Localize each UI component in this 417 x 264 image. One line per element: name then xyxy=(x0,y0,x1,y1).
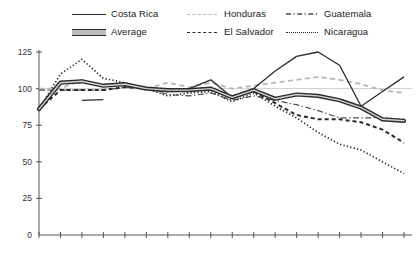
chart-series-group xyxy=(39,52,404,174)
legend-swatch-solid-icon xyxy=(72,9,106,19)
chart-x-tick-labels: 1963196519671970197119721973197419751976… xyxy=(31,241,413,242)
x-tick-label: 1979 xyxy=(288,241,305,242)
x-tick-label: 1971 xyxy=(116,241,133,242)
legend-label-average: Average xyxy=(111,27,147,37)
legend-swatch-dash-dot-icon xyxy=(285,9,319,19)
legend-item-nicaragua: Nicaragua xyxy=(285,24,368,40)
x-tick-label: 1982 xyxy=(353,241,370,242)
legend-item-costa-rica: Costa Rica xyxy=(72,6,158,22)
chart-axes xyxy=(36,50,412,238)
y-tick-label: 75 xyxy=(23,120,33,130)
y-tick-label: 100 xyxy=(18,84,32,94)
y-tick-label: 25 xyxy=(23,193,33,203)
legend-swatch-thick-band-icon xyxy=(72,27,106,37)
x-tick-label: 1983 xyxy=(374,241,391,242)
series-average xyxy=(39,81,404,121)
legend-label-el-salvador: El Salvador xyxy=(224,27,274,37)
x-tick-label: 1973 xyxy=(159,241,176,242)
x-tick-label: 1974 xyxy=(181,241,198,242)
x-tick-label: 1963 xyxy=(31,241,48,242)
y-tick-label: 125 xyxy=(18,47,32,57)
legend-item-guatemala: Guatemala xyxy=(285,6,371,22)
x-tick-label: 1972 xyxy=(138,241,155,242)
legend-label-nicaragua: Nicaragua xyxy=(324,27,368,37)
legend-row-2: Average El Salvador Nicaragua xyxy=(0,24,417,40)
series-el-salvador xyxy=(39,87,404,143)
chart-y-tick-labels: 0255075100125 xyxy=(18,47,32,240)
x-tick-label: 1976 xyxy=(224,241,241,242)
series-costa-rica-lead-in xyxy=(82,100,104,101)
x-tick-label: 1970 xyxy=(95,241,112,242)
series-nicaragua xyxy=(39,59,404,173)
line-chart-svg: 0255075100125 19631965196719701971197219… xyxy=(0,42,417,242)
legend-item-honduras: Honduras xyxy=(185,6,266,22)
x-tick-label: 1984 xyxy=(396,241,413,242)
legend-swatch-dashed-light-icon xyxy=(185,9,219,19)
legend-label-costa-rica: Costa Rica xyxy=(111,9,158,19)
legend-swatch-dashed-dark-icon xyxy=(185,27,219,37)
y-tick-label: 50 xyxy=(23,157,33,167)
x-tick-label: 1967 xyxy=(73,241,90,242)
chart-legend: Costa Rica Honduras Guatemala Average xyxy=(0,6,417,44)
x-tick-label: 1981 xyxy=(331,241,348,242)
legend-label-honduras: Honduras xyxy=(224,9,266,19)
chart-plot-area: 0255075100125 19631965196719701971197219… xyxy=(0,42,417,242)
x-tick-label: 1965 xyxy=(52,241,69,242)
x-tick-label: 1977 xyxy=(245,241,262,242)
legend-row-1: Costa Rica Honduras Guatemala xyxy=(0,6,417,22)
x-tick-label: 1978 xyxy=(267,241,284,242)
x-tick-label: 1980 xyxy=(310,241,327,242)
y-tick-label: 0 xyxy=(27,230,32,240)
chart-page: Costa Rica Honduras Guatemala Average xyxy=(0,0,417,264)
x-tick-label: 1975 xyxy=(202,241,219,242)
legend-item-el-salvador: El Salvador xyxy=(185,24,274,40)
legend-item-average: Average xyxy=(72,24,147,40)
legend-swatch-dotted-icon xyxy=(285,27,319,37)
legend-label-guatemala: Guatemala xyxy=(324,9,371,19)
